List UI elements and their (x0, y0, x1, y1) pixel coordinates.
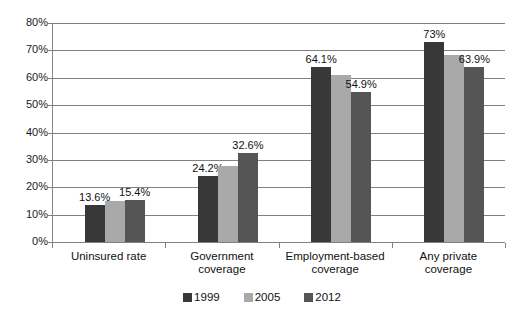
legend-item-1999[interactable]: 1999 (183, 292, 220, 303)
legend-label: 2012 (315, 292, 341, 303)
y-axis-tick-label: 30% (4, 154, 48, 165)
bar-2012-3 (351, 92, 371, 242)
bar-value-label: 63.9% (453, 54, 495, 65)
y-axis-tick-label: 50% (4, 99, 48, 110)
y-axis-tick-labels: 0%10%20%30%40%50%60%70%80% (0, 0, 48, 321)
bar-group: 73%63.9% (424, 23, 484, 242)
x-axis-category-line: Uninsured rate (49, 250, 169, 263)
plot-area: 13.6%15.4%24.2%32.6%64.1%54.9%73%63.9% (52, 23, 505, 242)
x-axis-tick-mark (52, 243, 53, 248)
y-axis-tick-label: 10% (4, 209, 48, 220)
bar-value-label: 15.4% (114, 187, 156, 198)
bar-value-label: 32.6% (227, 140, 269, 151)
bar-2005-3 (331, 75, 351, 242)
x-axis-category-label: Governmentcoverage (162, 250, 282, 276)
bar-2005-4 (444, 55, 464, 242)
legend-label: 2005 (255, 292, 281, 303)
legend-label: 1999 (194, 292, 220, 303)
x-axis-category-line: Employment-based (275, 250, 395, 263)
bar-2012-2 (238, 153, 258, 242)
legend-item-2012[interactable]: 2012 (304, 292, 341, 303)
y-axis-tick-label: 80% (4, 17, 48, 28)
bar-group: 64.1%54.9% (311, 23, 371, 242)
y-axis-tick-label: 70% (4, 44, 48, 55)
bar-2005-1 (105, 201, 125, 242)
bar-1999-2 (198, 176, 218, 242)
x-axis-tick-mark (392, 243, 393, 248)
x-axis-tick-mark (279, 243, 280, 248)
bar-1999-1 (85, 205, 105, 242)
x-axis-tick-mark (165, 243, 166, 248)
x-axis-category-line: coverage (388, 263, 508, 276)
bar-value-label: 73% (413, 29, 455, 40)
legend-swatch-icon (244, 293, 253, 302)
y-axis-tick-label: 60% (4, 72, 48, 83)
bar-value-label: 64.1% (300, 54, 342, 65)
bar-value-label: 54.9% (340, 79, 382, 90)
x-axis-category-label: Employment-basedcoverage (275, 250, 395, 276)
chart-legend: 199920052012 (0, 292, 524, 303)
x-axis-category-line: coverage (162, 263, 282, 276)
bar-1999-3 (311, 67, 331, 242)
y-axis-tick-label: 0% (4, 236, 48, 247)
bar-2005-2 (218, 166, 238, 242)
legend-swatch-icon (183, 293, 192, 302)
bar-1999-4 (424, 42, 444, 242)
x-axis-category-label: Any privatecoverage (388, 250, 508, 276)
bar-group: 13.6%15.4% (85, 23, 145, 242)
bar-2012-1 (125, 200, 145, 242)
x-axis-category-line: coverage (275, 263, 395, 276)
legend-swatch-icon (304, 293, 313, 302)
x-axis-category-line: Government (162, 250, 282, 263)
y-axis-tick-label: 20% (4, 181, 48, 192)
legend-item-2005[interactable]: 2005 (244, 292, 281, 303)
bar-chart: 0%10%20%30%40%50%60%70%80% 13.6%15.4%24.… (0, 0, 524, 321)
x-axis-category-line: Any private (388, 250, 508, 263)
x-axis-tick-mark (505, 243, 506, 248)
x-axis-category-label: Uninsured rate (49, 250, 169, 263)
bar-2012-4 (464, 67, 484, 242)
bar-group: 24.2%32.6% (198, 23, 258, 242)
y-axis-tick-label: 40% (4, 127, 48, 138)
